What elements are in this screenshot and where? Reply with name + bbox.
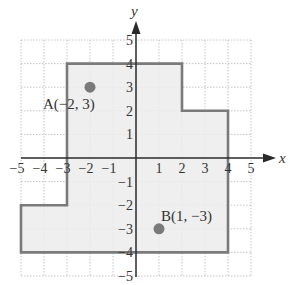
- y-tick-label: 1: [126, 127, 133, 142]
- y-axis-label: y: [129, 3, 138, 19]
- y-tick-label: −4: [118, 245, 133, 260]
- x-tick-label: 3: [202, 161, 209, 176]
- x-tick-label: −1: [102, 161, 117, 176]
- coordinate-plane: x y −5−4−3−2−112345 54321−1−2−3−4−5 A(−2…: [0, 0, 290, 285]
- point-a-marker: [85, 82, 96, 93]
- y-tick-label: −3: [118, 222, 133, 237]
- point-b-label: B(1, −3): [161, 208, 212, 225]
- x-axis-arrow-icon: [263, 154, 276, 163]
- y-tick-label: 3: [126, 80, 133, 95]
- y-tick-label: −2: [118, 198, 133, 213]
- x-tick-label: −5: [10, 161, 25, 176]
- x-tick-label: 4: [225, 161, 232, 176]
- x-tick-label: 1: [156, 161, 163, 176]
- x-tick-label: −2: [79, 161, 94, 176]
- y-tick-label: 4: [126, 57, 133, 72]
- y-tick-label: −5: [118, 269, 133, 284]
- point-a-label: A(−2, 3): [43, 96, 95, 113]
- y-tick-label: 5: [126, 33, 133, 48]
- x-tick-label: −4: [33, 161, 48, 176]
- point-b-marker: [154, 223, 165, 234]
- x-axis-label: x: [278, 150, 286, 166]
- x-tick-label: −3: [56, 161, 71, 176]
- y-tick-label: 2: [126, 104, 133, 119]
- x-tick-label: 2: [179, 161, 186, 176]
- x-tick-label: 5: [248, 161, 255, 176]
- y-tick-label: −1: [118, 175, 133, 190]
